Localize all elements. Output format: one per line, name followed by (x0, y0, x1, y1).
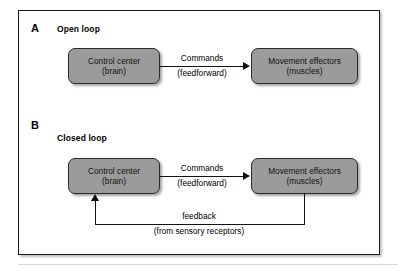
figure-frame: A Open loop Control center (brain) Comma… (18, 10, 380, 255)
panel-b-feedback-segment-horizontal (95, 224, 305, 225)
panel-a-title: Open loop (57, 25, 100, 34)
panel-b-feedback-segment-down (304, 194, 305, 225)
panel-a-commands-label-bottom: (feedforward) (154, 68, 250, 78)
panel-b-feedback-label-bottom: (from sensory receptors) (129, 226, 269, 236)
panel-a-node-movement-effectors-line1: Movement effectors (268, 56, 341, 67)
panel-b-node-movement-effectors-line2: (muscles) (287, 176, 323, 187)
panel-b-node-control-center-line1: Control center (88, 166, 140, 177)
panel-a-node-control-center[interactable]: Control center (brain) (68, 48, 160, 84)
panel-b-commands-arrow-line (160, 176, 244, 177)
panel-a-commands-label-top: Commands (160, 53, 244, 63)
panel-a-letter: A (31, 23, 39, 34)
panel-b-feedback-segment-up (95, 201, 96, 225)
panel-b-node-movement-effectors-line1: Movement effectors (268, 166, 341, 177)
panel-b-feedback-arrowhead-icon (91, 194, 99, 201)
panel-b-title: Closed loop (57, 134, 107, 143)
panel-b-commands-label-top: Commands (160, 163, 244, 173)
panel-a-commands-arrow-line (160, 66, 244, 67)
panel-a-node-control-center-line2: (brain) (102, 66, 126, 77)
panel-a-node-movement-effectors[interactable]: Movement effectors (muscles) (251, 48, 358, 84)
panel-b-letter: B (31, 120, 39, 131)
bottom-divider (18, 264, 398, 265)
panel-a-node-control-center-line1: Control center (88, 56, 140, 67)
panel-a-node-movement-effectors-line2: (muscles) (287, 66, 323, 77)
panel-b-node-control-center-line2: (brain) (102, 176, 126, 187)
panel-b-node-movement-effectors[interactable]: Movement effectors (muscles) (251, 158, 358, 194)
panel-b-commands-label-bottom: (feedforward) (154, 178, 250, 188)
panel-b-feedback-label-top: feedback (144, 211, 254, 221)
panel-b-node-control-center[interactable]: Control center (brain) (68, 158, 160, 194)
